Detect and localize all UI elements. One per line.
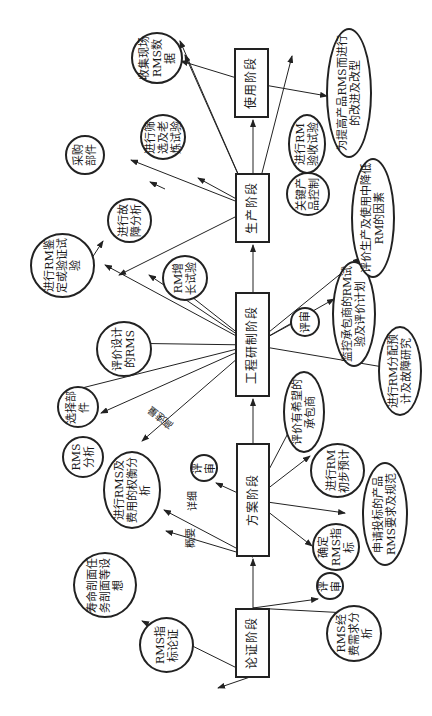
node-review-3: 评审 bbox=[290, 307, 320, 337]
node-improve-and-modify: 为提高产品RMS而进行的改进及改型 bbox=[326, 28, 372, 158]
node-bid-product-rms-spec: 申请投标的产品RMS要求及规范 bbox=[362, 462, 408, 566]
node-review-1: 评审 bbox=[316, 572, 344, 600]
node-evaluate-design-rms: 评价设计的RMS bbox=[96, 321, 152, 377]
node-rms-index-demonstration: RMS指标论证 bbox=[139, 617, 194, 673]
node-rm-qualification-test: 进行RM鉴定或验证试验 bbox=[30, 233, 95, 298]
node-review-2: 评审 bbox=[190, 454, 218, 482]
node-failure-analysis: 进行故障分析 bbox=[107, 198, 152, 243]
node-purchase-parts: 采购部件 bbox=[65, 135, 105, 175]
node-screening-burnin: 进行筛选及老炼试验 bbox=[140, 114, 186, 160]
stage-engineering-development: 工程研制阶段 bbox=[235, 292, 270, 397]
node-rm-allocation-prediction: 进行RM分配预计及故障研究 bbox=[378, 326, 422, 416]
node-rm-acceptance-test: 进行RM验收试验 bbox=[288, 114, 326, 174]
edge-label-detailed: 详细 bbox=[187, 491, 198, 511]
node-rms-cost-tradeoff: 进行RMS及费用的权衡分析 bbox=[103, 451, 161, 529]
lifecycle-diagram: 论证阶段 方案阶段 工程研制阶段 生产阶段 使用阶段 RMS指标论证 寿命剖面任… bbox=[0, 0, 432, 716]
node-select-parts: 选择部件 bbox=[57, 386, 99, 428]
stage-usage: 使用阶段 bbox=[234, 48, 269, 118]
node-life-mission-profile: 寿命剖面任务剖面等设想 bbox=[73, 552, 137, 618]
node-rm-preliminary-prediction: 进行RM初步预计 bbox=[310, 443, 365, 498]
edge-label-summary: 概要 bbox=[185, 528, 196, 548]
node-rms-cost-requirement: RMS经费需求分析 bbox=[326, 605, 382, 662]
node-rm-growth-test: RM增长试验 bbox=[162, 255, 208, 301]
node-key-product-control: 关键产品控制 bbox=[286, 172, 330, 216]
node-evaluate-rm-degradation: 评价生产及使用中降低RM的因素 bbox=[351, 158, 395, 278]
node-rms-analysis: RMS分析 bbox=[62, 436, 104, 478]
stage-demonstration: 论证阶段 bbox=[235, 608, 270, 678]
node-collect-field-rms-data: 收集现场RMS数据 bbox=[131, 32, 183, 84]
stage-production: 生产阶段 bbox=[235, 173, 270, 243]
stage-scheme: 方案阶段 bbox=[236, 443, 270, 557]
node-evaluate-subcontractors: 评价有希望的承包商 bbox=[283, 371, 325, 453]
node-determine-rms-index: 确定RMS指标 bbox=[312, 523, 360, 571]
